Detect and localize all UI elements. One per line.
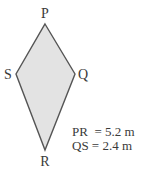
kite-diagram: P Q R S PR = 5.2 m QS = 2.4 m — [0, 0, 154, 178]
vertex-label-q: Q — [78, 67, 88, 82]
vertex-label-r: R — [40, 154, 50, 169]
vertex-label-p: P — [41, 6, 49, 21]
vertex-label-s: S — [4, 67, 12, 82]
kite-shape — [16, 24, 75, 150]
measurement-qs: QS = 2.4 m — [72, 138, 132, 153]
measurement-pr: PR = 5.2 m — [72, 124, 135, 139]
